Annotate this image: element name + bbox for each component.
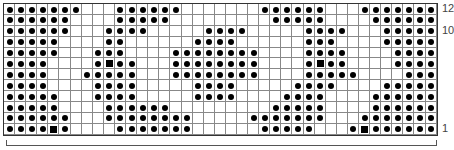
empty-cell: [93, 4, 104, 15]
empty-cell: [82, 80, 93, 91]
dot-stitch-cell: [304, 15, 315, 26]
dot-stitch-cell: [337, 69, 348, 80]
empty-cell: [281, 26, 292, 37]
dot-stitch-cell: [37, 4, 48, 15]
empty-cell: [248, 91, 259, 102]
empty-cell: [59, 80, 70, 91]
dot-stitch-cell: [48, 4, 59, 15]
empty-cell: [348, 4, 359, 15]
empty-cell: [204, 102, 215, 113]
dot-stitch-cell: [204, 48, 215, 59]
empty-cell: [71, 37, 82, 48]
dot-stitch-cell: [326, 37, 337, 48]
dot-stitch-cell: [4, 102, 15, 113]
dot-stitch-cell: [48, 91, 59, 102]
empty-cell: [71, 15, 82, 26]
empty-cell: [170, 102, 181, 113]
empty-cell: [237, 4, 248, 15]
dot-stitch-cell: [215, 48, 226, 59]
empty-cell: [292, 26, 303, 37]
empty-cell: [237, 80, 248, 91]
dot-stitch-cell: [215, 58, 226, 69]
empty-cell: [182, 102, 193, 113]
dot-stitch-cell: [26, 113, 37, 124]
dot-stitch-cell: [59, 113, 70, 124]
dot-stitch-cell: [403, 58, 414, 69]
empty-cell: [348, 58, 359, 69]
empty-cell: [170, 26, 181, 37]
dot-stitch-cell: [359, 4, 370, 15]
dot-stitch-cell: [137, 15, 148, 26]
empty-cell: [337, 4, 348, 15]
dot-stitch-cell: [148, 113, 159, 124]
dot-stitch-cell: [170, 4, 181, 15]
dot-stitch-cell: [193, 91, 204, 102]
dot-stitch-cell: [193, 58, 204, 69]
empty-cell: [348, 91, 359, 102]
empty-cell: [170, 37, 181, 48]
dot-stitch-cell: [392, 26, 403, 37]
dot-stitch-cell: [26, 48, 37, 59]
dot-stitch-cell: [115, 91, 126, 102]
dot-stitch-cell: [270, 124, 281, 135]
dot-stitch-cell: [281, 91, 292, 102]
empty-cell: [370, 48, 381, 59]
dot-stitch-cell: [15, 15, 26, 26]
empty-cell: [126, 37, 137, 48]
dot-stitch-cell: [426, 113, 437, 124]
empty-cell: [337, 15, 348, 26]
dot-stitch-cell: [381, 91, 392, 102]
dot-stitch-cell: [270, 113, 281, 124]
empty-cell: [248, 37, 259, 48]
empty-cell: [48, 58, 59, 69]
dot-stitch-cell: [326, 58, 337, 69]
dot-stitch-cell: [4, 48, 15, 59]
dot-stitch-cell: [392, 15, 403, 26]
dot-stitch-cell: [104, 113, 115, 124]
dot-stitch-cell: [115, 102, 126, 113]
empty-cell: [337, 102, 348, 113]
dot-stitch-cell: [37, 80, 48, 91]
dot-stitch-cell: [414, 37, 425, 48]
empty-cell: [170, 91, 181, 102]
dot-stitch-cell: [281, 124, 292, 135]
dot-stitch-cell: [392, 48, 403, 59]
dot-stitch-cell: [115, 37, 126, 48]
dot-stitch-cell: [237, 26, 248, 37]
dot-stitch-cell: [281, 102, 292, 113]
dot-stitch-cell: [104, 80, 115, 91]
dot-stitch-cell: [204, 91, 215, 102]
dot-stitch-cell: [270, 102, 281, 113]
empty-cell: [226, 124, 237, 135]
empty-cell: [215, 102, 226, 113]
dot-stitch-cell: [37, 113, 48, 124]
empty-cell: [148, 58, 159, 69]
dot-stitch-cell: [115, 15, 126, 26]
dot-stitch-cell: [403, 15, 414, 26]
dot-stitch-cell: [193, 48, 204, 59]
dot-stitch-cell: [414, 80, 425, 91]
dot-stitch-cell: [126, 69, 137, 80]
empty-cell: [137, 48, 148, 59]
dot-stitch-cell: [259, 113, 270, 124]
empty-cell: [159, 48, 170, 59]
dot-stitch-cell: [259, 4, 270, 15]
empty-cell: [359, 58, 370, 69]
dot-stitch-cell: [204, 26, 215, 37]
dot-stitch-cell: [403, 91, 414, 102]
empty-cell: [359, 69, 370, 80]
empty-cell: [182, 91, 193, 102]
dot-stitch-cell: [48, 113, 59, 124]
dot-stitch-cell: [370, 102, 381, 113]
dot-stitch-cell: [403, 124, 414, 135]
dot-stitch-cell: [403, 37, 414, 48]
dot-stitch-cell: [115, 80, 126, 91]
empty-cell: [281, 37, 292, 48]
empty-cell: [337, 80, 348, 91]
dot-stitch-cell: [159, 124, 170, 135]
dot-stitch-cell: [381, 4, 392, 15]
empty-cell: [359, 15, 370, 26]
empty-cell: [315, 124, 326, 135]
dot-stitch-cell: [426, 69, 437, 80]
empty-cell: [337, 91, 348, 102]
